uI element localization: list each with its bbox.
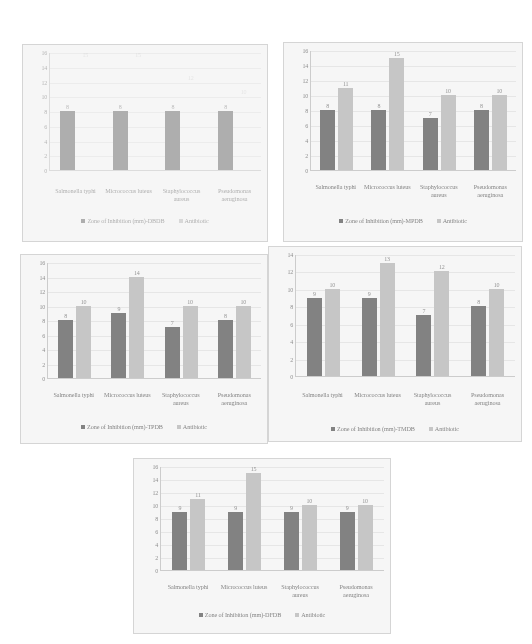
bar — [165, 111, 180, 170]
y-axis-tick-label: 4 — [305, 138, 308, 144]
legend-swatch-icon — [331, 427, 335, 431]
y-axis-tick-label: 8 — [155, 516, 158, 522]
bar-value-label: 10 — [445, 88, 451, 94]
legend-swatch-icon — [81, 219, 85, 223]
bar-value-label: 14 — [134, 270, 140, 276]
bar — [165, 327, 180, 378]
bar-slot: 10 — [358, 467, 373, 570]
y-axis-tick-label: 10 — [41, 94, 47, 100]
x-axis-category-label: Salmonella typhi — [295, 391, 350, 407]
bar-group: 810 — [465, 51, 516, 170]
bar-group: 810 — [48, 263, 101, 378]
legend-swatch-icon — [429, 427, 433, 431]
bar — [183, 306, 198, 379]
y-axis-tick-label: 8 — [290, 304, 293, 310]
bar — [218, 320, 233, 378]
bar-value-label: 10 — [362, 498, 368, 504]
y-axis-tick-label: 16 — [41, 50, 47, 56]
bar-value-label: 10 — [81, 299, 87, 305]
bar-value-label: 8 — [326, 103, 329, 109]
bar-value-label: 8 — [477, 299, 480, 305]
y-axis-tick-label: 6 — [290, 322, 293, 328]
bar — [320, 110, 335, 170]
bar-value-label: 10 — [307, 498, 313, 504]
bar-value-label: 7 — [171, 320, 174, 326]
bar-slot: 9 — [228, 467, 243, 570]
bar-slot: 12 — [183, 53, 198, 170]
y-axis-tick-label: 0 — [305, 168, 308, 174]
y-axis-tick-label: 2 — [44, 153, 47, 159]
bar-slot: 8 — [471, 255, 486, 376]
bar — [246, 473, 261, 571]
y-axis-tick-label: 0 — [155, 568, 158, 574]
bar-value-label: 10 — [497, 88, 503, 94]
chart-legend: Zone of Inhibition (mm)-DFDBAntibiotic — [134, 611, 390, 618]
y-axis-tick-label: 2 — [290, 357, 293, 363]
bar-value-label: 7 — [429, 111, 432, 117]
bar — [474, 110, 489, 170]
y-axis-tick-label: 8 — [305, 108, 308, 114]
bar-slot: 15 — [78, 53, 93, 170]
y-axis-tick-label: 2 — [305, 153, 308, 159]
legend-label: Zone of Inhibition (mm)-DFDB — [205, 611, 281, 618]
legend-label: Zone of Inhibition (mm)-TMDB — [337, 425, 415, 432]
x-axis-labels: Salmonella typhiMicrococcus luteusStaphy… — [310, 183, 516, 199]
y-axis-tick-label: 8 — [44, 109, 47, 115]
bar — [371, 110, 386, 170]
y-axis-tick-label: 4 — [290, 339, 293, 345]
y-axis-tick-label: 0 — [44, 168, 47, 174]
bar-value-label: 10 — [187, 299, 193, 305]
bar-groups: 815815812810 — [50, 53, 261, 170]
legend-item: Antibiotic — [437, 217, 467, 224]
bar-slot: 8 — [113, 53, 128, 170]
y-axis-tick-label: 6 — [44, 124, 47, 130]
bar-slot: 15 — [246, 467, 261, 570]
bar-value-label: 9 — [290, 505, 293, 511]
bar-slot: 10 — [325, 255, 340, 376]
bar-slot: 10 — [183, 263, 198, 378]
plot-area: 02468101214910913712810 — [295, 255, 515, 377]
x-axis-category-label: Staphylococcus aureus — [405, 391, 460, 407]
legend-label: Antibiotic — [435, 425, 459, 432]
bar-slot: 12 — [434, 255, 449, 376]
legend-label: Antibiotic — [183, 423, 207, 430]
bar-slot: 10 — [441, 51, 456, 170]
y-axis-tick-label: 0 — [290, 374, 293, 380]
bar — [389, 58, 404, 171]
y-axis-tick-label: 4 — [155, 542, 158, 548]
bar-value-label: 9 — [368, 291, 371, 297]
bar-value-label: 8 — [119, 104, 122, 110]
bar-value-label: 8 — [224, 104, 227, 110]
bar-value-label: 8 — [377, 103, 380, 109]
bar-slot: 8 — [165, 53, 180, 170]
bar — [441, 95, 456, 170]
bar-group: 815 — [103, 53, 156, 170]
chart-panel-tmdb: 02468101214910913712810Salmonella typhiM… — [268, 246, 522, 442]
bar — [471, 306, 486, 376]
chart-legend: Zone of Inhibition (mm)-MPDBAntibiotic — [284, 217, 522, 224]
y-axis-tick-label: 0 — [42, 376, 45, 382]
y-axis-tick-label: 10 — [287, 287, 293, 293]
bar-slot: 8 — [60, 53, 75, 170]
bar — [338, 88, 353, 171]
bar-groups: 810914710810 — [48, 263, 261, 378]
x-axis-category-label: Staphylococcus aureus — [155, 187, 208, 203]
bar-value-label: 10 — [494, 282, 500, 288]
bar-groups: 911915910910 — [161, 467, 384, 570]
y-axis-tick-label: 10 — [302, 93, 308, 99]
bar-slot: 10 — [492, 51, 507, 170]
bar-group: 815 — [50, 53, 103, 170]
y-axis-tick-label: 14 — [39, 275, 45, 281]
bar — [416, 315, 431, 376]
bar-groups: 910913712810 — [296, 255, 515, 376]
bar-value-label: 9 — [234, 505, 237, 511]
chart-panel-tpdb: 0246810121416810914710810Salmonella typh… — [20, 254, 268, 444]
bar — [78, 59, 93, 170]
legend-swatch-icon — [295, 613, 299, 617]
bar-slot: 9 — [340, 467, 355, 570]
legend-swatch-icon — [339, 219, 343, 223]
y-axis-tick-label: 16 — [152, 464, 158, 470]
y-axis-tick-label: 4 — [44, 139, 47, 145]
plot-area: 0246810121416810914710810 — [47, 263, 261, 379]
chart-legend: Zone of Inhibition (mm)-DBDBAntibiotic — [23, 217, 267, 224]
